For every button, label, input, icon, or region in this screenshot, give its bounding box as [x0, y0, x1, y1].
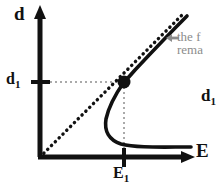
y-axis-arrowhead — [34, 5, 46, 19]
phase-diagram-figure: the f rema d E d1 E1 d1 — [0, 0, 222, 189]
intersection-point-marker — [118, 76, 131, 89]
y-tick-label-d1: d1 — [6, 71, 20, 90]
x-tick-label-base: E — [113, 164, 124, 181]
y-tick-label-subscript: 1 — [15, 78, 21, 90]
y-axis-label: d — [14, 4, 25, 23]
x-tick-label-e1: E1 — [113, 165, 129, 184]
x-axis-arrowhead — [181, 151, 195, 163]
margin-note-d1: d1 — [201, 87, 216, 107]
x-tick-label-subscript: 1 — [124, 172, 130, 184]
annotation-text: the f rema — [177, 30, 222, 56]
plot-canvas — [0, 0, 222, 189]
forty-five-degree-line — [40, 14, 183, 157]
annotation-line-1: the f — [177, 30, 222, 43]
annotation-line-2: rema — [177, 43, 222, 56]
x-axis-label: E — [196, 141, 209, 160]
y-tick-label-base: d — [6, 70, 15, 87]
margin-note-subscript: 1 — [210, 95, 216, 107]
